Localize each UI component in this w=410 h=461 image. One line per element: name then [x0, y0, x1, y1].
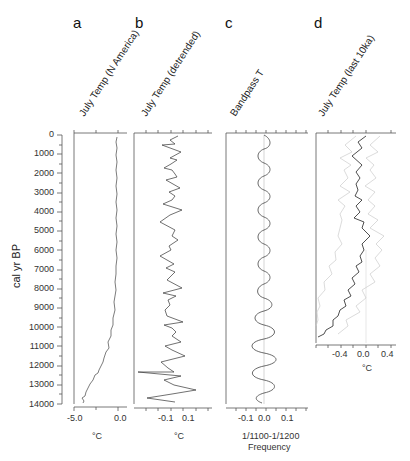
panel-b: [134, 130, 212, 411]
panel-a: [74, 130, 127, 411]
y-axis-ticks-marks: [57, 135, 62, 404]
panel-d: [316, 130, 396, 348]
chart-canvas: [0, 0, 410, 461]
panel-c: [226, 130, 308, 411]
